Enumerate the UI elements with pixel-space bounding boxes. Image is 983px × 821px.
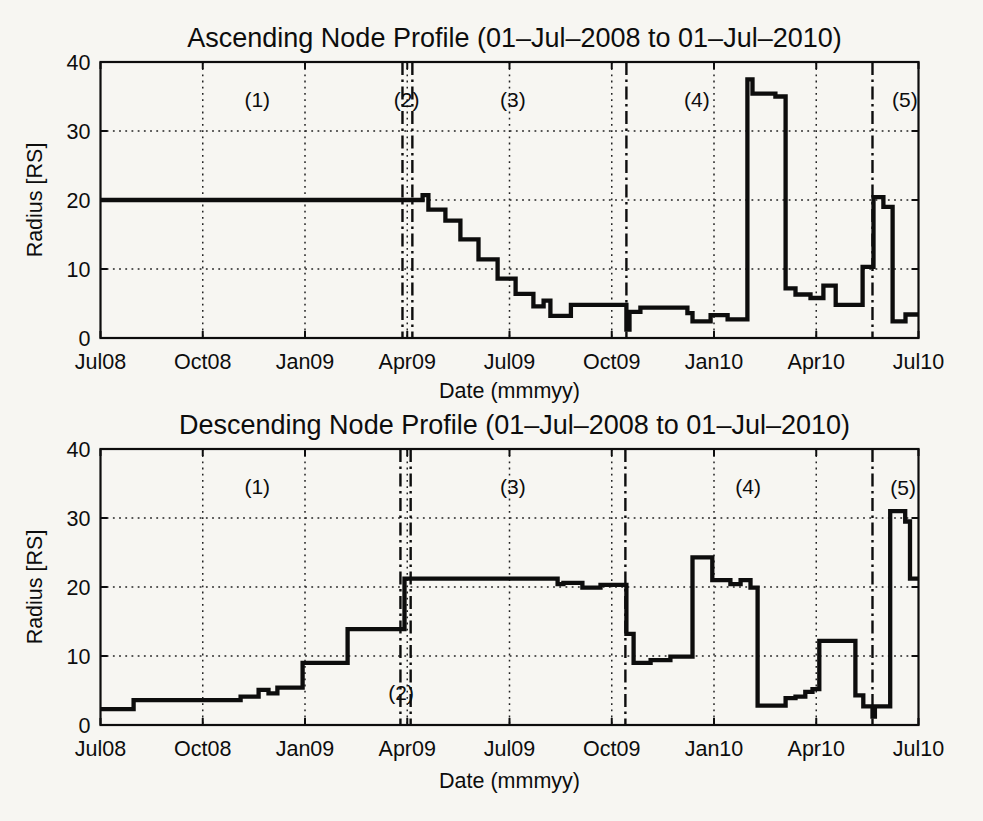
y-tick-label: 40 bbox=[67, 51, 91, 75]
region-label: (1) bbox=[244, 88, 270, 111]
descending-node-chart: Jul08Oct08Jan09Apr09Jul09Oct09Jan10Apr10… bbox=[23, 410, 944, 793]
region-label: (5) bbox=[890, 476, 916, 499]
y-tick-label: 0 bbox=[79, 327, 91, 351]
x-tick-label: Jan09 bbox=[276, 737, 335, 761]
y-tick-label: 10 bbox=[67, 645, 91, 669]
x-tick-label: Oct09 bbox=[583, 350, 640, 374]
x-tick-label: Jan09 bbox=[276, 350, 335, 374]
x-axis-label: Date (mmmyy) bbox=[439, 769, 580, 793]
region-label: (3) bbox=[500, 475, 526, 498]
x-tick-label: Jul10 bbox=[893, 350, 944, 374]
region-label: (3) bbox=[500, 88, 526, 111]
x-tick-label: Apr09 bbox=[379, 350, 436, 374]
x-tick-label: Apr10 bbox=[788, 350, 845, 374]
ascending-node-chart: Jul08Oct08Jan09Apr09Jul09Oct09Jan10Apr10… bbox=[23, 23, 944, 403]
y-axis-label: Radius [RS] bbox=[23, 530, 47, 645]
x-tick-label: Jul08 bbox=[75, 350, 126, 374]
region-label: (5) bbox=[892, 88, 918, 111]
y-tick-label: 20 bbox=[67, 576, 91, 600]
x-axis-label: Date (mmmyy) bbox=[439, 379, 580, 403]
x-tick-label: Oct09 bbox=[583, 737, 640, 761]
y-tick-label: 20 bbox=[67, 189, 91, 213]
region-label: (2) bbox=[388, 681, 414, 704]
y-tick-label: 10 bbox=[67, 258, 91, 282]
x-tick-label: Oct08 bbox=[174, 737, 231, 761]
chart-title: Descending Node Profile (01–Jul–2008 to … bbox=[179, 410, 850, 440]
y-tick-label: 30 bbox=[67, 507, 91, 531]
region-label: (2) bbox=[394, 88, 420, 111]
x-tick-label: Jul09 bbox=[484, 350, 535, 374]
x-tick-label: Jul09 bbox=[484, 737, 535, 761]
region-label: (4) bbox=[684, 88, 710, 111]
y-tick-label: 40 bbox=[67, 438, 91, 462]
x-tick-label: Apr09 bbox=[379, 737, 436, 761]
x-tick-label: Apr10 bbox=[788, 737, 845, 761]
x-tick-label: Jan10 bbox=[685, 350, 744, 374]
y-axis-label: Radius [RS] bbox=[23, 143, 47, 258]
figure-canvas: Jul08Oct08Jan09Apr09Jul09Oct09Jan10Apr10… bbox=[0, 0, 983, 821]
y-tick-label: 0 bbox=[79, 714, 91, 738]
node-profile-figure: Jul08Oct08Jan09Apr09Jul09Oct09Jan10Apr10… bbox=[0, 0, 983, 821]
chart-title: Ascending Node Profile (01–Jul–2008 to 0… bbox=[187, 23, 841, 53]
y-tick-label: 30 bbox=[67, 120, 91, 144]
x-tick-label: Oct08 bbox=[174, 350, 231, 374]
x-tick-label: Jul08 bbox=[75, 737, 126, 761]
region-label: (1) bbox=[244, 475, 270, 498]
x-tick-label: Jan10 bbox=[685, 737, 744, 761]
x-tick-label: Jul10 bbox=[893, 737, 944, 761]
region-label: (4) bbox=[735, 475, 761, 498]
